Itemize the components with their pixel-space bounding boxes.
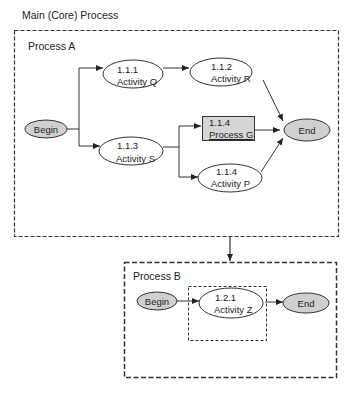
process-b-label: Process B bbox=[133, 270, 181, 282]
activity-s-label: Activity S bbox=[116, 153, 155, 164]
begin-b-label: Begin bbox=[137, 296, 177, 307]
activity-q-label: Activity Q bbox=[117, 76, 157, 87]
diagram-canvas bbox=[0, 0, 351, 395]
activity-q-id: 1.1.1 bbox=[117, 64, 138, 75]
activity-s-id: 1.1.3 bbox=[117, 140, 138, 151]
end-a-label: End bbox=[287, 125, 327, 136]
process-g-id: 1.1.4 bbox=[209, 117, 230, 128]
activity-z-id: 1.2.1 bbox=[215, 292, 236, 303]
end-b-label: End bbox=[286, 298, 326, 309]
begin-a-label: Begin bbox=[26, 124, 66, 135]
activity-p-id: 1.1.4 bbox=[216, 166, 237, 177]
diagram-title: Main (Core) Process bbox=[22, 9, 118, 21]
process-a-label: Process A bbox=[28, 40, 75, 52]
activity-r-id: 1.1.2 bbox=[211, 61, 232, 72]
activity-p-label: Activity P bbox=[211, 178, 250, 189]
activity-r-label: Activity R bbox=[211, 73, 251, 84]
process-g-label: Process G bbox=[209, 129, 253, 140]
activity-z-label: Activity Z bbox=[214, 304, 253, 315]
